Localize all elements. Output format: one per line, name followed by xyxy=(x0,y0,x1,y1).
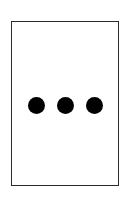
screen-canvas: ... xyxy=(0,0,131,198)
ellipsis-dot-3 xyxy=(86,97,103,114)
ellipsis-dot-2 xyxy=(57,97,74,114)
bordered-panel: ... xyxy=(11,21,119,186)
ellipsis-icon[interactable]: ... xyxy=(12,97,118,114)
ellipsis-dot-1 xyxy=(28,97,45,114)
